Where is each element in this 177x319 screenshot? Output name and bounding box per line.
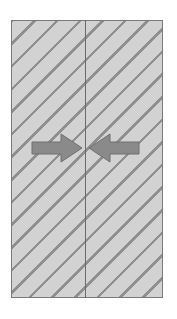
arrow-right-icon [32,134,82,162]
arrows-layer [0,0,177,319]
arrow-left-icon [89,134,139,162]
